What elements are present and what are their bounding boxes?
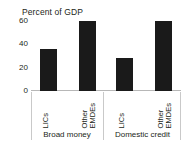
bar-lics-domestic-credit bbox=[116, 58, 133, 91]
category-label-lics-broad-money: LICs bbox=[42, 113, 50, 128]
category-label-line2: EMDEs bbox=[165, 103, 173, 128]
y-axis-tick-0: 0 bbox=[24, 87, 28, 95]
bar-lics-broad-money bbox=[40, 49, 57, 91]
y-axis-tick-40: 40 bbox=[19, 40, 28, 48]
category-label-lics-domestic-credit: LICs bbox=[118, 113, 126, 128]
y-axis-tick-60: 60 bbox=[19, 17, 28, 25]
category-label-line2: EMDEs bbox=[89, 103, 97, 128]
chart-title: Percent of GDP bbox=[22, 7, 83, 17]
group-label-broad-money: Broad money bbox=[31, 130, 103, 140]
category-label-other-emdes-broad-money: Other EMDEs bbox=[81, 103, 97, 128]
category-label-other-emdes-domestic-credit: Other EMDEs bbox=[157, 103, 173, 128]
group-label-domestic-credit: Domestic credit bbox=[104, 130, 181, 140]
y-axis-tick-20: 20 bbox=[19, 64, 28, 72]
bar-chart-figure: Percent of GDP 60 40 20 0 LICs Other EMD… bbox=[0, 0, 186, 151]
category-label-line1: LICs bbox=[41, 113, 50, 128]
group-label-band: Broad money Domestic credit bbox=[31, 130, 181, 144]
bar-other-emdes-domestic-credit bbox=[155, 21, 172, 91]
plot-area: 60 40 20 0 bbox=[31, 21, 181, 91]
bar-other-emdes-broad-money bbox=[79, 21, 96, 91]
category-label-line1: LICs bbox=[117, 113, 126, 128]
category-label-band: LICs Other EMDEs LICs Other EMDEs bbox=[31, 92, 181, 128]
